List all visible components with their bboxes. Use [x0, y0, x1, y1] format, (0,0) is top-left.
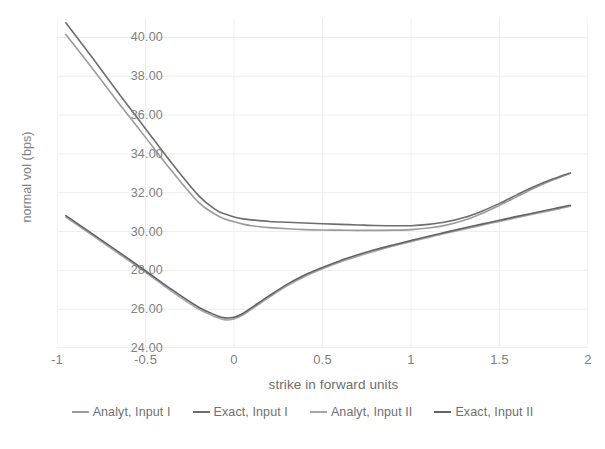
plot-area [57, 18, 588, 348]
x-axis-title-text: strike in forward units [207, 377, 399, 392]
x-tick-label: -1 [34, 352, 80, 367]
y-tick-label: 34.00 [107, 147, 163, 161]
legend-line-swatch-icon [72, 411, 89, 413]
legend-line-swatch-icon [434, 411, 451, 413]
x-tick-label: 1 [388, 352, 434, 367]
legend-item[interactable]: Analyt, Input I [72, 405, 171, 419]
plot-svg [57, 18, 588, 348]
legend-item[interactable]: Analyt, Input II [310, 405, 413, 419]
x-tick-label: 0 [211, 352, 257, 367]
chart-legend: Analyt, Input IExact, Input IAnalyt, Inp… [0, 405, 605, 419]
legend-label: Analyt, Input I [93, 405, 171, 419]
series-line-0 [66, 35, 570, 231]
y-tick-label: 38.00 [107, 69, 163, 83]
x-tick-label: -0.5 [123, 352, 169, 367]
legend-label: Exact, Input I [214, 405, 288, 419]
chart-figure: normal vol (bps) 24.0026.0028.0030.0032.… [0, 0, 605, 449]
y-tick-label: 28.00 [107, 263, 163, 277]
x-tick-label: 2 [565, 352, 605, 367]
legend-label: Exact, Input II [455, 405, 533, 419]
x-axis-title: strike in forward units [0, 377, 605, 392]
x-tick-label: 1.5 [477, 352, 523, 367]
y-axis-title: normal vol (bps) [20, 107, 34, 247]
y-tick-label: 30.00 [107, 225, 163, 239]
y-tick-label: 36.00 [107, 108, 163, 122]
x-tick-label: 0.5 [300, 352, 346, 367]
legend-line-swatch-icon [193, 411, 210, 413]
legend-line-swatch-icon [310, 411, 327, 413]
y-tick-label: 32.00 [107, 186, 163, 200]
y-tick-label: 26.00 [107, 302, 163, 316]
legend-item[interactable]: Exact, Input I [193, 405, 288, 419]
y-tick-label: 40.00 [107, 30, 163, 44]
legend-label: Analyt, Input II [331, 405, 413, 419]
legend-item[interactable]: Exact, Input II [434, 405, 533, 419]
